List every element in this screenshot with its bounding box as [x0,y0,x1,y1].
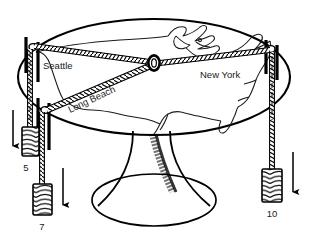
pedestal-shading [152,134,172,192]
pedestal-left-edge [98,131,133,206]
weight-cylinder-7 [33,184,52,215]
force-balance-diagram: 5 7 10 Seattle Long Beach New York [0,0,309,236]
figure-canvas: 5 7 10 Seattle Long Beach New York [0,0,309,236]
tabletop-ellipse [18,19,290,135]
weight-label-10: 10 [267,208,278,219]
table-pedestal [92,131,216,226]
pedestal-right-edge [170,131,210,206]
center-ring [148,55,159,70]
table-top [18,19,290,135]
weight-label-5: 5 [23,162,28,173]
weight-cylinder-5 [22,127,39,156]
pedestal-foot-ellipse [92,174,216,226]
city-label-new-york: New York [200,69,240,80]
center-ring-inner [152,59,157,67]
weight-label-7: 7 [39,221,44,232]
city-label-seattle: Seattle [43,60,73,71]
weight-cylinder-10 [262,169,282,202]
